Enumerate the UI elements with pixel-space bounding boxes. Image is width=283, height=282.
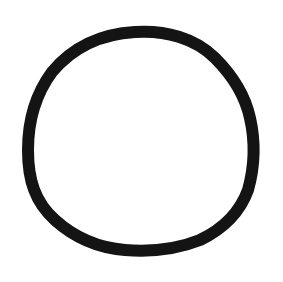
circle-drawing — [0, 0, 283, 282]
circle-stroke — [28, 32, 254, 251]
